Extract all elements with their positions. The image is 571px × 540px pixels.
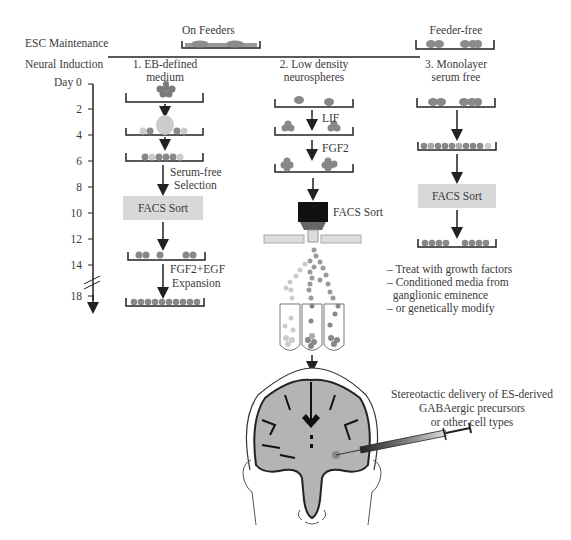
esc-maintenance-label: ESC Maintenance: [25, 37, 108, 50]
method1-step2-line2: Expansion: [172, 277, 221, 290]
method2-step1: LIF: [322, 112, 339, 125]
method1-title: 1. EB-defined: [115, 58, 215, 71]
method1-step2: FGF2+EGF: [170, 263, 225, 276]
delivery-label-line3: or other cell types: [372, 416, 571, 429]
method2-dishes: [264, 96, 361, 367]
tick-label: 10: [66, 207, 82, 220]
method3-note: – or genetically modify: [387, 302, 495, 315]
on-feeders-label: On Feeders: [182, 24, 262, 37]
tick-label: 8: [72, 181, 82, 194]
tick-label: 4: [72, 129, 82, 142]
method2-step2: FGF2: [322, 142, 349, 155]
on-feeders-dish: [182, 41, 260, 49]
brain-illustration: [243, 368, 381, 525]
delivery-label: Stereotactic delivery of ES-derived: [372, 388, 571, 401]
facs-machine: [298, 202, 328, 222]
tick-label: 18: [66, 290, 82, 303]
timeline-axis: [84, 84, 100, 308]
axis-break: [84, 276, 100, 284]
delivery-label-line2: GABAergic precursors: [372, 402, 571, 415]
method3-note: ganglionic eminence: [387, 289, 488, 302]
facs-sort-label-2: FACS Sort: [333, 206, 383, 219]
tick-label: 6: [72, 155, 82, 168]
tick-label: 12: [66, 233, 82, 246]
method2-title-line2: neurospheres: [264, 71, 364, 84]
day0-label: Day 0: [54, 76, 82, 89]
facs-sort-box-3: FACS Sort: [418, 184, 496, 208]
facs-sort-box-1: FACS Sort: [123, 196, 203, 220]
method1-step1-line2: Selection: [174, 179, 217, 192]
method3-note: – Conditioned media from: [387, 276, 509, 289]
tick-label: 2: [72, 103, 82, 116]
tick-label: 14: [66, 259, 82, 272]
feeder-free-dish: [416, 40, 494, 49]
method3-note: – Treat with growth factors: [387, 263, 512, 276]
method3-dishes: [417, 98, 496, 247]
method1-title-line2: medium: [115, 71, 215, 84]
neural-induction-label: Neural Induction: [25, 58, 103, 71]
method1-step1: Serum-free: [170, 166, 222, 179]
method2-title: 2. Low density: [264, 58, 364, 71]
feeder-free-label: Feeder-free: [416, 24, 496, 37]
method3-title: 3. Monolayer: [406, 58, 506, 71]
method3-title-line2: serum free: [406, 71, 506, 84]
